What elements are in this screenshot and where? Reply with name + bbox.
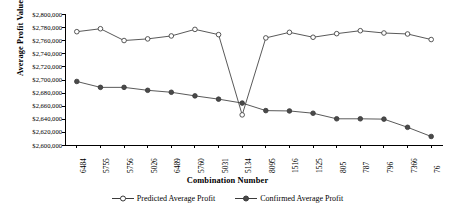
data-point-predicted <box>75 29 80 34</box>
data-point-confirmed <box>216 97 221 102</box>
x-axis-tick-labels: 6484575557565026648957605031513480951516… <box>65 147 443 175</box>
data-point-confirmed <box>240 101 245 106</box>
data-point-predicted <box>264 36 269 41</box>
y-axis-tick <box>62 14 65 15</box>
data-point-confirmed <box>75 79 80 84</box>
x-axis-tick-label: 5760 <box>198 143 206 173</box>
legend-label-confirmed: Confirmed Average Profit <box>260 194 343 203</box>
data-point-confirmed <box>358 117 363 122</box>
y-axis-tick <box>62 27 65 28</box>
data-point-predicted <box>382 31 387 36</box>
x-axis-tick-label: 6484 <box>80 143 88 173</box>
data-point-predicted <box>240 113 245 118</box>
y-axis-tick <box>62 40 65 41</box>
data-point-confirmed <box>405 125 410 130</box>
y-axis-tick <box>62 119 65 120</box>
y-axis-tick-label: $2,780,000 <box>18 24 62 31</box>
data-point-confirmed <box>169 90 174 95</box>
y-axis-tick <box>62 53 65 54</box>
chart-legend: Predicted Average Profit Confirmed Avera… <box>0 194 455 203</box>
y-axis-tick <box>62 132 65 133</box>
legend-swatch-open-circle-icon <box>112 194 134 203</box>
data-point-confirmed <box>311 111 316 116</box>
data-point-confirmed <box>287 109 292 114</box>
y-axis-tick-label: $2,720,000 <box>18 63 62 70</box>
data-point-predicted <box>169 34 174 39</box>
series-line-predicted <box>77 29 431 115</box>
x-axis-tick-label: 1516 <box>292 143 300 173</box>
y-axis-tick-label: $2,640,000 <box>18 115 62 122</box>
data-point-confirmed <box>98 85 103 90</box>
data-point-confirmed <box>429 134 434 139</box>
y-axis-tick <box>62 66 65 67</box>
y-axis-tick <box>62 93 65 94</box>
series-line-confirmed <box>77 81 431 136</box>
data-point-confirmed <box>334 117 339 122</box>
y-axis-tick-label: $2,800,000 <box>18 11 62 18</box>
y-axis-tick <box>62 106 65 107</box>
x-axis-tick-label: 5026 <box>151 143 159 173</box>
legend-swatch-filled-circle-icon <box>235 194 257 203</box>
x-axis-tick-label: 6489 <box>174 143 182 173</box>
x-axis-tick-label: 8095 <box>269 143 277 173</box>
x-axis-title: Combination Number <box>0 176 455 185</box>
y-axis-tick-label: $2,700,000 <box>18 76 62 83</box>
x-axis-tick-label: 7366 <box>411 143 419 173</box>
data-point-predicted <box>216 32 221 37</box>
y-axis-tick-label: $2,760,000 <box>18 37 62 44</box>
data-point-predicted <box>429 37 434 42</box>
x-axis-tick-label: 787 <box>363 143 371 173</box>
data-point-predicted <box>334 31 339 36</box>
x-axis-tick-label: 805 <box>340 143 348 173</box>
legend-item-confirmed: Confirmed Average Profit <box>235 194 343 203</box>
data-point-confirmed <box>145 88 150 93</box>
y-axis-tick-label: $2,600,000 <box>18 142 62 149</box>
x-axis-tick-label: 5134 <box>245 143 253 173</box>
y-axis-tick <box>62 145 65 146</box>
plot-area <box>65 14 443 145</box>
data-point-predicted <box>287 30 292 35</box>
y-axis-tick-label: $2,660,000 <box>18 102 62 109</box>
x-axis-tick-label: 5756 <box>127 143 135 173</box>
chart-container: Average Profit Value $2,800,000$2,780,00… <box>0 0 455 216</box>
x-axis-tick-label: 796 <box>387 143 395 173</box>
data-point-confirmed <box>382 117 387 122</box>
data-point-predicted <box>311 35 316 40</box>
data-point-predicted <box>193 27 198 32</box>
data-point-predicted <box>145 37 150 42</box>
chart-svg <box>65 14 443 145</box>
legend-item-predicted: Predicted Average Profit <box>112 194 216 203</box>
x-axis-tick-label: 5031 <box>222 143 230 173</box>
y-axis-tick-label: $2,680,000 <box>18 89 62 96</box>
x-axis-tick-label: 76 <box>434 143 442 173</box>
data-point-predicted <box>358 28 363 33</box>
data-point-confirmed <box>122 85 127 90</box>
x-axis-tick-label: 1525 <box>316 143 324 173</box>
data-point-predicted <box>405 32 410 37</box>
y-axis-tick-label: $2,740,000 <box>18 50 62 57</box>
data-point-confirmed <box>193 94 198 99</box>
y-axis-tick <box>62 80 65 81</box>
x-axis-tick-label: 5755 <box>103 143 111 173</box>
data-point-predicted <box>122 38 127 43</box>
data-point-confirmed <box>264 108 269 113</box>
data-point-predicted <box>98 26 103 31</box>
y-axis-tick-label: $2,620,000 <box>18 128 62 135</box>
legend-label-predicted: Predicted Average Profit <box>137 194 216 203</box>
